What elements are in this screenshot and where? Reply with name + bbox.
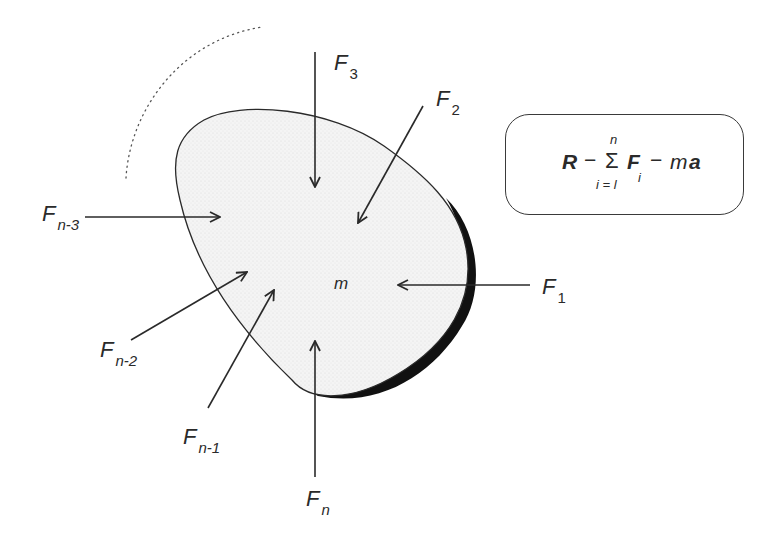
- label-fn-1-base: F: [183, 424, 196, 449]
- equation-box: R − n Σ i = l F i − m a: [505, 114, 744, 215]
- eq-sigma: Σ: [605, 148, 619, 174]
- eq-force-sub: i: [638, 170, 641, 185]
- eq-acceleration: a: [689, 150, 701, 174]
- eq-resultant: R: [562, 150, 577, 174]
- label-f1-base: F: [542, 274, 555, 299]
- mass-label: m: [334, 274, 348, 294]
- label-f2-sub: 2: [451, 101, 459, 118]
- label-fn-2-base: F: [100, 337, 113, 362]
- label-f2: F2: [436, 88, 460, 110]
- label-f1: F1: [542, 276, 566, 298]
- label-fn-2: Fn-2: [100, 339, 137, 361]
- label-fn-2-sub: n-2: [115, 352, 137, 369]
- label-fn-3: Fn-3: [42, 203, 79, 225]
- label-f3-base: F: [334, 50, 347, 75]
- label-fn-base: F: [306, 486, 319, 511]
- label-fn-1: Fn-1: [183, 426, 220, 448]
- free-body-diagram: [0, 0, 778, 535]
- label-f1-sub: 1: [557, 289, 565, 306]
- rigid-body: [175, 109, 468, 395]
- label-f3: F3: [334, 52, 358, 74]
- label-fn-1-sub: n-1: [198, 439, 220, 456]
- label-fn: Fn: [306, 488, 330, 510]
- label-f3-sub: 3: [349, 65, 357, 82]
- newton-second-law-equation: R − n Σ i = l F i − m a: [506, 115, 743, 214]
- eq-operator-1: −: [584, 148, 596, 172]
- eq-mass: m: [670, 150, 688, 174]
- label-f2-base: F: [436, 86, 449, 111]
- eq-operator-2: −: [650, 148, 662, 172]
- label-fn-3-sub: n-3: [57, 216, 79, 233]
- label-fn-sub: n: [321, 501, 329, 518]
- eq-sum-lower: i = l: [596, 177, 617, 192]
- label-fn-3-base: F: [42, 201, 55, 226]
- eq-sum-upper: n: [610, 132, 617, 147]
